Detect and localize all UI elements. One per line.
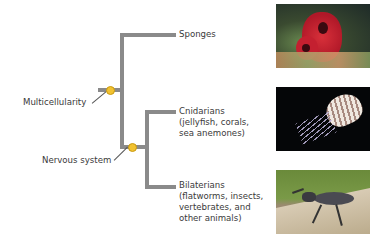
- taxon-label-sponges: Sponges: [179, 29, 216, 40]
- multicellularity-marker: [106, 86, 115, 95]
- nervous-system-marker: [128, 143, 137, 152]
- second-vertical-branch: [145, 110, 149, 189]
- taxon-label-cnidarians: Cnidarians (jellyfish, corals, sea anemo…: [179, 106, 249, 139]
- multicellularity-leader: [92, 92, 106, 104]
- taxon-label-bilaterians: Bilaterians (flatworms, insects, vertebr…: [179, 180, 263, 224]
- beetle-body: [314, 192, 354, 205]
- reef-coral: [276, 52, 370, 68]
- trait-label-multicellularity: Multicellularity: [23, 97, 86, 107]
- beetle-photo: [276, 170, 370, 234]
- sponge-opening: [318, 22, 328, 34]
- jellyfish-photo: [276, 87, 370, 151]
- cnidarians-branch: [145, 110, 176, 114]
- sponge-photo: [276, 4, 370, 68]
- sponges-branch: [120, 33, 176, 37]
- sponge-opening-2: [302, 44, 310, 52]
- main-vertical-branch: [120, 33, 124, 149]
- trait-label-nervous-system: Nervous system: [42, 155, 111, 165]
- beetle-head: [302, 192, 316, 202]
- bilaterians-branch: [145, 185, 176, 189]
- jellyfish-tentacles: [295, 112, 336, 145]
